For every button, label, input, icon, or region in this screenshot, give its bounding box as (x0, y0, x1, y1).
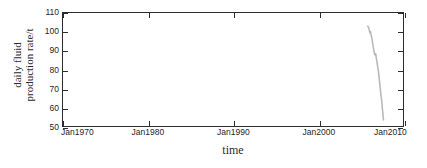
plot-inner (63, 13, 403, 126)
data-series-line (368, 26, 384, 120)
y-axis-tick-label: 60 (44, 103, 59, 112)
y-axis-title: daily fluid production rate/t (0, 0, 44, 130)
x-axis-tick-top (234, 13, 235, 18)
y-axis-tick-label: 70 (44, 84, 59, 93)
y-axis-tick-right (398, 90, 403, 91)
y-axis-tick-right (398, 32, 403, 33)
y-axis-tick-left (63, 90, 68, 91)
y-axis-tick-right (398, 71, 403, 72)
y-axis-tick-left (63, 109, 68, 110)
y-axis-tick-right (398, 51, 403, 52)
y-axis-tick-label: 90 (44, 46, 59, 55)
x-axis-tick-top (63, 13, 64, 18)
y-axis-tick-left (63, 51, 68, 52)
y-axis-tick-label: 50 (44, 123, 59, 132)
x-axis-tick-label: Jan1970 (61, 128, 94, 137)
x-axis-title: time (62, 143, 404, 158)
x-axis-tick-bottom (320, 121, 321, 126)
y-axis-tick-left (63, 71, 68, 72)
x-axis-tick-label: Jan1980 (132, 128, 165, 137)
plot-area (62, 12, 404, 127)
x-axis-tick-top (320, 13, 321, 18)
y-axis-tick-right (398, 128, 403, 129)
y-axis-tick-left (63, 32, 68, 33)
x-axis-tick-label: Jan2010 (374, 128, 407, 137)
x-axis-tick-bottom (234, 121, 235, 126)
y-axis-tick-label: 80 (44, 65, 59, 74)
y-axis-tick-right (398, 109, 403, 110)
y-axis-title-text: daily fluid production rate/t (10, 28, 34, 101)
y-axis-title-line1: daily fluid (10, 28, 22, 101)
x-axis-tick-label: Jan1990 (217, 128, 250, 137)
x-axis-tick-top (405, 13, 406, 18)
chart-figure: daily fluid production rate/t 5060708090… (0, 0, 427, 168)
y-axis-tick-label: 110 (44, 8, 59, 17)
data-series-layer (63, 13, 403, 126)
x-axis-tick-bottom (149, 121, 150, 126)
y-axis-tick-right (398, 13, 403, 14)
x-axis-tick-bottom (63, 121, 64, 126)
x-axis-tick-bottom (405, 121, 406, 126)
x-axis-tick-label: Jan2000 (303, 128, 336, 137)
y-axis-title-line2: production rate/t (22, 28, 34, 101)
y-axis-tick-label: 100 (44, 27, 59, 36)
x-axis-tick-top (149, 13, 150, 18)
y-axis-tick-left (63, 128, 68, 129)
